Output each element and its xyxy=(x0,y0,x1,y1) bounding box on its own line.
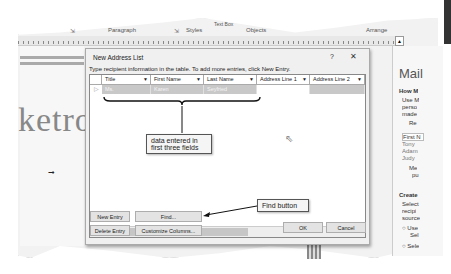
table-row[interactable]: ▷ Ms. Karen Seyfried xyxy=(90,85,365,94)
column-label: Last Name xyxy=(207,76,234,82)
pane-text: recipi xyxy=(402,208,416,214)
pane-text: pu xyxy=(412,172,419,178)
cell-address-line-1[interactable] xyxy=(257,85,310,94)
cell-title[interactable]: Ms. xyxy=(102,85,151,94)
pane-text: source xyxy=(402,215,420,221)
close-button[interactable]: ✕ xyxy=(350,52,357,61)
column-label: Address Line 2 xyxy=(313,76,350,82)
document-heading-text: ketro xyxy=(18,101,93,139)
cancel-button[interactable]: Cancel xyxy=(326,222,366,233)
callout-data-entered: data entered in first three fields xyxy=(146,134,212,154)
ribbon-group-labels: ⇲ Paragraph ⇲ Styles Objects Arrange Tex… xyxy=(18,27,426,36)
document-stripe xyxy=(20,62,84,65)
pane-text: Use M xyxy=(402,97,419,103)
row-selector-icon[interactable]: ▷ xyxy=(90,85,102,94)
text-cursor-arrow-icon: ➞ xyxy=(48,168,55,177)
pane-sample-header: First N xyxy=(402,133,424,141)
help-button[interactable]: ? xyxy=(330,53,334,60)
cell-address-line-2[interactable] xyxy=(310,85,365,94)
column-header-address-line-2[interactable]: Address Line 2▼ xyxy=(310,75,365,84)
document-stripe xyxy=(20,56,84,59)
column-label: Address Line 1 xyxy=(260,76,297,82)
pane-step-1: Re xyxy=(409,120,417,126)
pane-text: Sel xyxy=(410,232,419,238)
row-header-corner xyxy=(90,75,102,84)
pane-heading-create: Create xyxy=(399,192,418,198)
find-button[interactable]: Find... xyxy=(135,211,202,222)
pane-text: made xyxy=(402,111,417,117)
column-label: Title xyxy=(105,76,115,82)
pane-radio-select[interactable]: ○ Sele xyxy=(402,243,419,249)
radio-label: Use xyxy=(407,225,418,231)
dropdown-arrow-icon[interactable]: ▼ xyxy=(302,75,307,84)
column-label: First Name xyxy=(154,76,181,82)
ok-button[interactable]: OK xyxy=(283,222,323,233)
table-header: Title▼ First Name▼ Last Name▼ Address Li… xyxy=(90,75,365,85)
dialog-title: New Address List xyxy=(93,54,143,61)
delete-entry-button[interactable]: Delete Entry xyxy=(90,225,130,236)
new-entry-button[interactable]: New Entry xyxy=(90,211,130,222)
dialog-instruction: Type recipient information in the table.… xyxy=(89,66,291,72)
column-header-title[interactable]: Title▼ xyxy=(102,75,151,84)
horizontal-ruler[interactable] xyxy=(18,36,398,46)
pane-step-2: Me xyxy=(409,165,417,171)
customize-columns-button[interactable]: Customize Columns... xyxy=(135,225,202,236)
mouse-pointer-icon: ⇖ xyxy=(285,133,293,144)
column-header-address-line-1[interactable]: Address Line 1▼ xyxy=(257,75,310,84)
pane-radio-use[interactable]: ○ Use xyxy=(402,225,418,231)
ribbon-group-paragraph: Paragraph xyxy=(108,27,136,33)
document-page[interactable] xyxy=(20,46,84,246)
paragraph-launcher-icon[interactable]: ⇲ xyxy=(70,27,75,34)
styles-launcher-icon[interactable]: ⇲ xyxy=(174,27,179,34)
cell-last-name[interactable]: Seyfried xyxy=(204,85,257,94)
dropdown-arrow-icon[interactable]: ▼ xyxy=(143,75,148,84)
pane-sample-name: Adam xyxy=(402,148,418,154)
pane-sample-name: Judy xyxy=(402,155,415,161)
column-header-first-name[interactable]: First Name▼ xyxy=(151,75,204,84)
address-table[interactable]: Title▼ First Name▼ Last Name▼ Address Li… xyxy=(89,74,366,238)
ribbon-group-arrange: Arrange xyxy=(366,27,387,33)
cell-first-name[interactable]: Karen xyxy=(151,85,204,94)
ruler-toggle-button[interactable]: ▲ xyxy=(395,36,404,46)
callout-find-button: Find button xyxy=(257,199,309,212)
dropdown-arrow-icon[interactable]: ▼ xyxy=(249,75,254,84)
ribbon-group-styles: Styles xyxy=(186,27,202,33)
column-header-last-name[interactable]: Last Name▼ xyxy=(204,75,257,84)
pane-sample-name: Tony xyxy=(402,141,415,147)
horizontal-scrollbar[interactable]: < > xyxy=(90,226,365,237)
dropdown-arrow-icon[interactable]: ▼ xyxy=(357,75,362,84)
radio-label: Sele xyxy=(407,243,419,249)
document-decoration-stripes xyxy=(307,243,321,259)
window-edge-bar xyxy=(444,0,451,44)
ribbon-group-objects: Objects xyxy=(246,27,266,33)
pane-text: perso xyxy=(402,104,417,110)
pane-heading: How M xyxy=(399,88,418,94)
dropdown-arrow-icon[interactable]: ▼ xyxy=(196,75,201,84)
mail-merge-title: Mail xyxy=(399,66,423,81)
pane-text: Select xyxy=(402,201,419,207)
text-box-label: Text Box xyxy=(214,21,233,27)
